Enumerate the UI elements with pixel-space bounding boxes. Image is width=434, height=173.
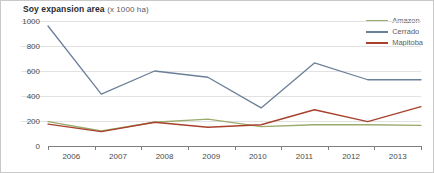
x-axis-tick-mark (141, 146, 142, 150)
x-axis-tick-mark (281, 146, 282, 150)
x-axis-tick-mark (328, 146, 329, 150)
x-axis-tick-mark (48, 146, 49, 150)
y-axis-tick-label: 400 (1, 92, 40, 101)
soy-expansion-area-chart: Soy expansion area (x 1000 ha) Amazon Ce… (0, 0, 434, 173)
series-lines (48, 21, 421, 146)
x-axis-tick-label: 2008 (156, 152, 174, 161)
y-axis-tick-label: 1000 (1, 17, 40, 26)
chart-title-text: Soy expansion area (23, 4, 105, 14)
chart-title: Soy expansion area (x 1000 ha) (23, 4, 149, 14)
x-axis-tick-mark (374, 146, 375, 150)
y-axis-tick-label: 600 (1, 67, 40, 76)
x-axis-tick-label: 2011 (296, 152, 313, 161)
y-axis-tick-label: 200 (1, 117, 40, 126)
y-axis-tick-label: 0 (1, 142, 40, 151)
plot-area (48, 21, 421, 146)
x-axis-tick-mark (235, 146, 236, 150)
x-axis-tick-mark (188, 146, 189, 150)
x-axis-tick-label: 2007 (109, 152, 127, 161)
x-axis-tick-mark (421, 146, 422, 150)
x-axis-tick-label: 2009 (202, 152, 220, 161)
series-line-mapitoba (48, 107, 421, 132)
x-axis-tick-label: 2012 (342, 152, 360, 161)
x-axis-tick-label: 2013 (389, 152, 407, 161)
x-axis-tick-label: 2010 (249, 152, 267, 161)
y-axis-tick-label: 800 (1, 42, 40, 51)
x-axis-tick-mark (95, 146, 96, 150)
chart-title-unit: (x 1000 ha) (107, 5, 149, 14)
series-line-cerrado (48, 26, 421, 108)
x-axis-tick-label: 2006 (62, 152, 80, 161)
